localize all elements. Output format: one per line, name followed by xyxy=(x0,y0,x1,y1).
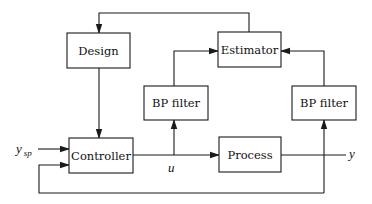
controller-label: Controller xyxy=(71,149,131,163)
bp-filter-left-to-estimator-line xyxy=(174,51,218,86)
controller-block: Controller xyxy=(69,138,133,173)
bp-filter-right-block: BP filter xyxy=(292,86,356,120)
bp-filter-right-to-estimator-line xyxy=(281,51,324,86)
bp-filter-left-block: BP filter xyxy=(144,86,208,120)
estimator-label: Estimator xyxy=(221,43,279,57)
block-diagram: Design Estimator BP filter BP filter Con… xyxy=(0,0,372,204)
estimator-block: Estimator xyxy=(218,32,281,67)
control-signal-label: u xyxy=(168,160,175,175)
bp-filter-left-label: BP filter xyxy=(152,96,201,110)
setpoint-label: ysp xyxy=(14,141,32,158)
output-signal-label: y xyxy=(347,146,355,161)
estimator-to-design-line xyxy=(99,13,249,33)
process-block: Process xyxy=(219,137,281,172)
design-label: Design xyxy=(78,44,119,58)
design-block: Design xyxy=(67,33,130,68)
bp-filter-right-label: BP filter xyxy=(300,96,349,110)
process-label: Process xyxy=(227,148,272,162)
